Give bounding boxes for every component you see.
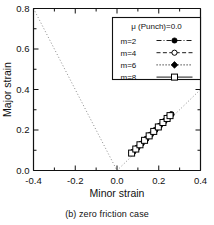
y-tick-label: 0.6 bbox=[16, 43, 29, 54]
x-tick-label: -0.2 bbox=[67, 175, 83, 186]
legend-marker-m=4 bbox=[172, 50, 177, 55]
y-tick-label: 0.4 bbox=[16, 84, 29, 95]
legend-marker-m=8 bbox=[172, 74, 178, 80]
legend-label-m=6: m=6 bbox=[121, 61, 137, 70]
legend-label-m=4: m=4 bbox=[121, 49, 137, 58]
x-tick-label: -0.4 bbox=[25, 175, 41, 186]
data-point-m=8 bbox=[167, 113, 173, 119]
x-tick-label: 0.2 bbox=[152, 175, 165, 186]
scatter-chart: -0.4-0.20.00.20.40.00.20.40.60.8Minor st… bbox=[0, 0, 214, 206]
y-tick-label: 0.2 bbox=[16, 124, 29, 135]
figure-caption: (b) zero friction case bbox=[0, 207, 214, 225]
figure-forming-limit-diagram: -0.4-0.20.00.20.40.00.20.40.60.8Minor st… bbox=[0, 0, 214, 225]
x-tick-label: 0.4 bbox=[194, 175, 207, 186]
uniaxial-tension-line bbox=[34, 9, 118, 171]
legend-label-m=8: m=8 bbox=[121, 73, 137, 82]
x-axis-title: Minor strain bbox=[90, 187, 145, 199]
legend-marker-m=2 bbox=[172, 38, 177, 43]
x-tick-label: 0.0 bbox=[110, 175, 123, 186]
y-tick-label: 0.0 bbox=[16, 165, 29, 176]
chart-canvas: -0.4-0.20.00.20.40.00.20.40.60.8Minor st… bbox=[0, 0, 214, 206]
legend-label-m=2: m=2 bbox=[121, 37, 137, 46]
y-tick-label: 0.8 bbox=[16, 3, 29, 14]
y-axis-title: Major strain bbox=[1, 62, 13, 117]
legend-title: μ (Punch)=0.0 bbox=[131, 22, 182, 31]
